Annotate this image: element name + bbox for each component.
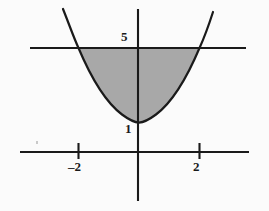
plot-canvas xyxy=(0,0,269,211)
parabola-area-figure: 5 1 –2 2 xyxy=(0,0,269,211)
x-axis-label-2: 2 xyxy=(193,160,200,173)
y-axis-label-5: 5 xyxy=(121,30,128,43)
x-axis-label-negative-2: –2 xyxy=(68,160,81,173)
y-axis-label-1: 1 xyxy=(125,122,132,135)
scan-artifact-speck xyxy=(36,141,38,144)
